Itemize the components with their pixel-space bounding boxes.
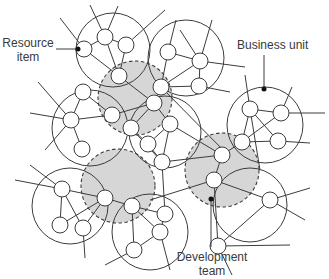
resource-item-node — [153, 79, 169, 95]
resource-item-node — [104, 107, 120, 123]
resource-item-node — [75, 84, 91, 100]
resource-item-callout-dot — [76, 47, 81, 52]
external-link-line — [218, 245, 290, 246]
resource-item-label-line1: Resource — [0, 36, 56, 50]
development-team-label-line2: team — [176, 264, 248, 278]
business-unit-callout-dot — [262, 87, 267, 92]
resource-item-node — [262, 192, 278, 208]
resource-item-node — [75, 220, 91, 236]
resource-item-node — [160, 44, 176, 60]
resource-item-node — [214, 147, 230, 163]
development-team-label: Development team — [176, 250, 248, 278]
resource-item-node — [124, 198, 140, 214]
resource-item-node — [234, 134, 250, 150]
resource-item-node — [74, 141, 90, 157]
resource-item-node — [192, 53, 208, 69]
resource-item-label: Resource item — [0, 36, 56, 64]
resource-item-node — [97, 190, 113, 206]
resource-item-node — [157, 206, 173, 222]
resource-item-node — [273, 105, 289, 121]
resource-item-label-line2: item — [0, 50, 56, 64]
resource-item-node — [146, 95, 162, 111]
resource-item-node — [52, 217, 68, 233]
resource-item-node — [152, 224, 168, 240]
resource-item-node — [206, 172, 222, 188]
resource-item-node — [154, 154, 170, 170]
resource-item-node — [63, 112, 79, 128]
resource-item-node — [123, 120, 139, 136]
resource-item-node — [118, 37, 134, 53]
resource-item-node — [270, 133, 286, 149]
resource-item-nodes — [52, 29, 289, 258]
resource-item-node — [54, 181, 70, 197]
resource-item-node — [162, 116, 178, 132]
resource-item-node — [97, 29, 113, 45]
business-unit-label: Business unit — [237, 38, 308, 52]
development-team-callout-dot — [209, 197, 214, 202]
resource-item-node — [191, 78, 207, 94]
resource-item-node — [111, 68, 127, 84]
resource-item-node — [242, 101, 258, 117]
resource-item-node — [140, 136, 156, 152]
resource-item-node — [126, 242, 142, 258]
development-team-label-line1: Development — [176, 250, 248, 264]
